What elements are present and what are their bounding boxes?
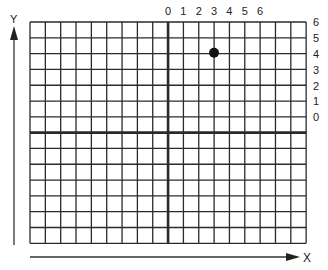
y-axis-arrow-icon [10, 26, 18, 40]
y-tick-label: 1 [313, 95, 319, 107]
y-tick-label: 0 [313, 111, 319, 123]
x-tick-label: 6 [257, 5, 263, 17]
y-tick-label: 4 [313, 48, 319, 60]
x-tick-label: 3 [211, 5, 217, 17]
coordinate-grid-diagram: Y X 0123456 6543210 [0, 0, 328, 270]
grid [30, 22, 306, 243]
x-tick-label: 5 [242, 5, 248, 17]
x-axis-arrow-icon [286, 253, 300, 261]
x-tick-label: 1 [180, 5, 186, 17]
y-tick-label: 5 [313, 32, 319, 44]
x-tick-label: 0 [165, 5, 171, 17]
x-axis-label: X [303, 251, 311, 265]
x-tick-label: 2 [196, 5, 202, 17]
y-tick-label: 3 [313, 64, 319, 76]
right-labels: 6543210 [313, 16, 319, 123]
y-tick-label: 2 [313, 80, 319, 92]
y-axis-label: Y [10, 13, 18, 25]
top-labels: 0123456 [165, 5, 263, 17]
plotted-point [209, 48, 219, 58]
x-tick-label: 4 [226, 5, 232, 17]
y-tick-label: 6 [313, 16, 319, 28]
